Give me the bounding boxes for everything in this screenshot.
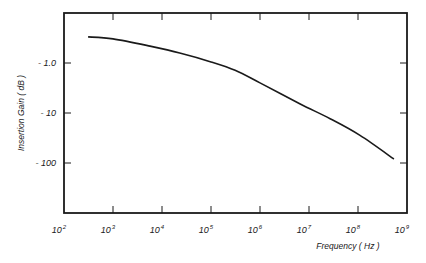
y-tick-label: - 100 [35,158,56,168]
axis-ticks [64,13,407,213]
x-tick-label: 104 [150,224,165,235]
plot-frame [64,13,407,213]
x-tick-label: 107 [297,224,312,235]
x-tick-label: 108 [346,224,361,235]
plot-border [64,13,407,213]
y-axis-title: Insertion Gain ( dB ) [16,75,26,151]
y-tick-label: - 10 [40,108,56,118]
y-tick-labels: - 1.0- 10- 100 [35,58,56,168]
x-tick-label: 105 [199,224,214,235]
x-axis-title: Frequency ( Hz ) [316,241,379,251]
x-tick-label: 103 [101,224,116,235]
x-tick-labels: 102103104105106107108109 [52,224,410,235]
insertion-gain-curve [88,37,394,159]
chart: 102103104105106107108109 - 1.0- 10- 100 … [0,0,426,263]
x-tick-label: 102 [52,224,67,235]
y-tick-label: - 1.0 [38,58,56,68]
x-tick-label: 109 [395,224,410,235]
x-tick-label: 106 [248,224,263,235]
